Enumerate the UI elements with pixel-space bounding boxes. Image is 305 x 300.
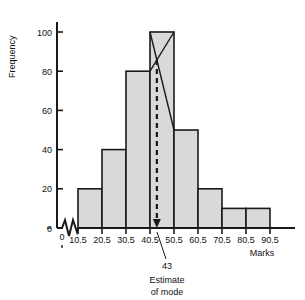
histogram-chart: 020406080100 010.520.530.540.550.560.570…: [0, 0, 305, 300]
histogram-bar: [198, 189, 222, 228]
histogram-bar: [222, 208, 246, 228]
x-tick-label: 80.5: [237, 235, 255, 245]
histogram-bar: [246, 208, 270, 228]
x-tick-label: 10.5: [69, 235, 87, 245]
x-tick-label: 20.5: [93, 235, 111, 245]
histogram-bar: [78, 189, 102, 228]
y-tick-label: 100: [37, 28, 52, 38]
y-tick-label: 80: [42, 67, 52, 77]
x-ticks-group: 010.520.530.540.550.560.570.580.590.5: [59, 228, 278, 248]
histogram-bar: [150, 32, 174, 228]
mode-value-label: 43: [162, 261, 172, 271]
y-axis-title: Frequency: [7, 35, 17, 78]
histogram-bar: [174, 130, 198, 228]
x-tick-label: 30.5: [117, 235, 135, 245]
histogram-bar: [126, 71, 150, 228]
mode-caption-line-2: of mode: [151, 287, 184, 297]
x-tick-label: 40.5: [141, 235, 159, 245]
x-tick-label: 90.5: [261, 235, 279, 245]
y-tick-label: 20: [42, 184, 52, 194]
y-ticks-group: 020406080100: [37, 28, 63, 234]
x-tick-label: 50.5: [165, 235, 183, 245]
mode-caption-line-1: Estimate: [149, 275, 184, 285]
x-tick-label-zero: 0: [59, 232, 64, 242]
x-axis-title: Marks: [250, 248, 275, 258]
y-tick-label: 60: [42, 106, 52, 116]
histogram-bar: [102, 150, 126, 228]
x-tick-label: 60.5: [189, 235, 207, 245]
chart-svg: 020406080100 010.520.530.540.550.560.570…: [0, 0, 305, 300]
x-tick-label: 70.5: [213, 235, 231, 245]
y-tick-label: 40: [42, 145, 52, 155]
